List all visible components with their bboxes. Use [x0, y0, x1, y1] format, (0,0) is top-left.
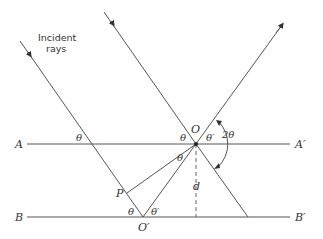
- point-o: [194, 142, 198, 146]
- path-difference-line: [127, 144, 196, 193]
- incident-ray-right: [104, 12, 196, 144]
- reflected-ray: [143, 25, 282, 217]
- label-b-prime: B′: [294, 211, 306, 224]
- caption-line1: Incident: [38, 32, 77, 43]
- angle-theta-oprime-left: θ: [128, 206, 134, 217]
- angle-theta-oprime-right: θ′: [151, 206, 160, 217]
- label-p: P: [115, 187, 124, 200]
- transmitted-ray: [196, 144, 248, 217]
- label-o-prime: O′: [138, 221, 150, 234]
- angle-theta-o-left: θ: [180, 132, 186, 143]
- angle-theta-o-right: θ′: [206, 132, 215, 143]
- angle-theta-po: θ: [177, 152, 183, 163]
- angle-theta-a: θ: [76, 132, 82, 143]
- label-o: O: [191, 123, 200, 136]
- label-a-prime: A′: [294, 138, 306, 151]
- label-d: d: [193, 180, 200, 193]
- label-b: B: [14, 211, 23, 224]
- arrow-icon: [214, 163, 220, 169]
- angle-two-theta: 2θ: [221, 129, 234, 140]
- arrow-icon: [276, 25, 282, 33]
- bragg-diffraction-diagram: Incident rays A A′ B B′ O O′ P θ θ θ′ 2θ…: [0, 0, 323, 239]
- label-a: A: [14, 138, 23, 151]
- incident-ray-left: [20, 41, 143, 217]
- caption-line2: rays: [46, 43, 66, 54]
